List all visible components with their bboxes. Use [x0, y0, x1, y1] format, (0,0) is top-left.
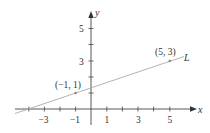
x-axis-label: x: [197, 104, 203, 115]
coordinate-plot: x y −3 −1 1 3 5 3 5 (−1, 1) (5, 3) L: [0, 0, 210, 133]
y-tick-label: 5: [79, 24, 84, 34]
line-L: [15, 57, 184, 114]
x-axis-arrow-icon: [190, 106, 197, 111]
x-tick-label: −1: [70, 115, 80, 125]
point-a-marker: [74, 92, 77, 95]
y-axis-label: y: [94, 7, 100, 18]
point-b-label: (5, 3): [155, 47, 176, 58]
point-b-marker: [169, 60, 172, 63]
x-tick-label: 3: [136, 115, 141, 125]
x-tick-label: −3: [39, 115, 49, 125]
x-tick-label: 1: [105, 115, 110, 125]
line-name-label: L: [183, 52, 190, 63]
x-tick-label: 5: [168, 115, 173, 125]
point-a-label: (−1, 1): [55, 80, 81, 91]
y-tick-label: 3: [79, 57, 84, 67]
y-axis-arrow-icon: [88, 11, 93, 18]
